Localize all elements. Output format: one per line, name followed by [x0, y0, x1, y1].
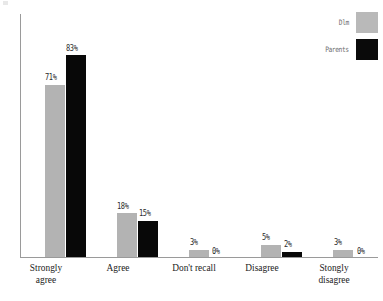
bar-value-label: 71% — [45, 72, 57, 82]
bar-value-label: 83% — [66, 43, 78, 53]
bar-value-label: 0% — [357, 246, 365, 256]
bar-value-label: 3% — [190, 237, 198, 247]
bar-parents — [282, 252, 302, 257]
bar-group: 71% 83% — [45, 14, 86, 257]
x-tick-label: Strongly agree — [13, 263, 79, 286]
x-axis-line — [20, 257, 378, 258]
x-tick-label: Agree — [85, 263, 151, 275]
legend: Dlm Parents — [294, 11, 378, 65]
x-tick-label: Don't recall — [155, 263, 233, 275]
legend-label: Dlm — [339, 18, 349, 27]
bar-value-label: 3% — [334, 237, 342, 247]
bar-dlm — [189, 250, 209, 257]
bar-group: 3% 0% — [189, 14, 230, 257]
x-tick-label: Stongly disagree — [301, 263, 367, 286]
bar-chart: 71% 83% 18% 15% 3% 0% 5% 2% 3% — [0, 0, 383, 301]
bar-parents — [66, 55, 86, 257]
bar-parents — [138, 221, 158, 258]
legend-item-parents: Parents — [294, 38, 378, 60]
bar-dlm — [333, 250, 353, 257]
legend-item-dlm: Dlm — [294, 11, 378, 33]
bar-value-label: 2% — [284, 239, 292, 249]
bar-value-label: 18% — [117, 201, 129, 211]
bar-group: 18% 15% — [117, 14, 158, 257]
bar-dlm — [45, 85, 65, 258]
bar-value-label: 5% — [262, 232, 270, 242]
scan-artifact — [3, 1, 8, 5]
bar-value-label: 0% — [212, 246, 220, 256]
bar-value-label: 15% — [139, 208, 151, 218]
x-tick-label: Disagree — [229, 263, 295, 275]
bar-dlm — [117, 213, 137, 257]
legend-swatch-icon — [356, 39, 378, 60]
legend-label: Parents — [325, 45, 349, 54]
legend-swatch-icon — [356, 12, 378, 33]
bar-dlm — [261, 245, 281, 257]
